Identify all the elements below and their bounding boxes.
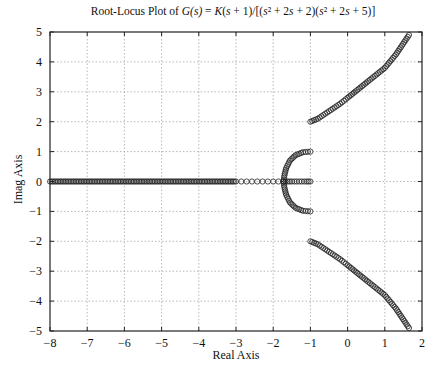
series-branch-upper-outer — [308, 32, 412, 124]
y-tick-label: 3 — [36, 85, 42, 99]
root-locus-plot: −8−7−6−5−4−3−2−1012−5−4−3−2−1012345 — [0, 0, 436, 372]
y-tick-label: 0 — [36, 175, 42, 189]
y-tick-label: 1 — [36, 145, 42, 159]
y-axis-label: Imag Axis — [11, 150, 26, 210]
y-tick-label: 4 — [36, 55, 42, 69]
y-tick-label: 2 — [36, 115, 42, 129]
y-tick-label: −4 — [29, 294, 42, 308]
x-axis-label: Real Axis — [50, 348, 422, 363]
series-branch-lower-outer — [308, 239, 412, 331]
y-tick-label: −1 — [29, 204, 42, 218]
y-tick-label: −2 — [29, 234, 42, 248]
y-tick-label: −3 — [29, 264, 42, 278]
y-tick-label: 5 — [36, 25, 42, 39]
y-tick-label: −5 — [29, 324, 42, 338]
